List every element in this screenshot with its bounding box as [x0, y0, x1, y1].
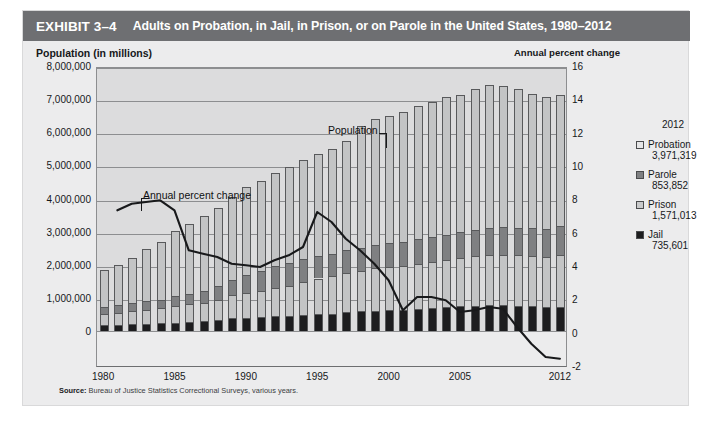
y2-tick-label: 6	[572, 228, 602, 239]
y-tick-label: 5,000,000	[29, 160, 91, 171]
bar-segment-probation	[357, 126, 366, 248]
bar-segment-probation	[328, 149, 337, 254]
bar-segment-jail	[542, 307, 551, 331]
bar-segment-jail	[471, 306, 480, 331]
bar-segment-jail	[442, 307, 451, 331]
bar-segment-prison	[185, 304, 194, 321]
bar-segment-prison	[171, 306, 180, 322]
y-tick-label: 3,000,000	[29, 227, 91, 238]
bar-segment-jail	[514, 306, 523, 331]
bar-segment-prison	[299, 282, 308, 315]
bar-segment-parole	[200, 291, 209, 303]
exhibit-page: EXHIBIT 3–4 Adults on Probation, in Jail…	[0, 0, 711, 440]
bar-1987	[200, 216, 209, 331]
bar-1988	[214, 208, 223, 331]
bar-segment-prison	[357, 271, 366, 312]
bar-segment-parole	[556, 226, 565, 254]
exhibit-title-bar: EXHIBIT 3–4 Adults on Probation, in Jail…	[23, 11, 690, 41]
bar-segment-jail	[428, 308, 437, 331]
legend-item-probation[interactable]: Probation3,971,319	[636, 139, 706, 162]
y-tick-label: 8,000,000	[29, 61, 91, 72]
bar-1995	[314, 154, 323, 331]
bar-2006	[471, 89, 480, 331]
legend-item-name: Prison	[648, 199, 676, 210]
bar-segment-parole	[499, 227, 508, 254]
bar-segment-jail	[142, 324, 151, 331]
bar-segment-probation	[214, 208, 223, 286]
chart-lower-band	[96, 332, 567, 367]
bar-segment-probation	[257, 181, 266, 271]
bar-segment-prison	[499, 255, 508, 305]
legend-items: Probation3,971,319Parole853,852Prison1,5…	[636, 139, 706, 252]
bar-segment-probation	[228, 197, 237, 281]
bar-segment-prison	[399, 266, 408, 310]
bar-segment-parole	[456, 232, 465, 258]
bar-segment-jail	[485, 305, 494, 331]
bar-segment-jail	[528, 306, 537, 331]
y-axis-title-left: Population (in millions)	[36, 47, 152, 59]
exhibit-number: EXHIBIT 3–4	[36, 19, 117, 34]
bar-segment-jail	[399, 310, 408, 331]
bar-segment-probation	[185, 224, 194, 294]
bar-1984	[157, 242, 166, 331]
legend-item-jail[interactable]: Jail735,601	[636, 229, 706, 252]
bar-segment-parole	[485, 228, 494, 255]
bar-2010	[528, 94, 537, 331]
bar-segment-parole	[442, 235, 451, 261]
bar-segment-parole	[399, 242, 408, 266]
bar-segment-parole	[357, 248, 366, 271]
y-axis-title-right: Annual percent change	[514, 47, 620, 58]
bar-segment-parole	[542, 229, 551, 257]
bar-segment-prison	[528, 256, 537, 306]
legend-item-parole[interactable]: Parole853,852	[636, 169, 706, 192]
bar-segment-parole	[328, 254, 337, 277]
bar-segment-prison	[371, 268, 380, 311]
bar-segment-jail	[342, 312, 351, 331]
bar-segment-jail	[228, 318, 237, 331]
jail-swatch	[636, 231, 644, 239]
probation-swatch	[636, 141, 644, 149]
legend-item-value: 735,601	[652, 240, 706, 252]
bar-segment-parole	[171, 296, 180, 306]
bar-segment-prison	[442, 260, 451, 307]
annotation-leader-pop	[386, 133, 387, 148]
y2-tick-label: 0	[572, 328, 602, 339]
bar-segment-jail	[257, 317, 266, 331]
bar-segment-jail	[214, 320, 223, 331]
bar-2000	[385, 116, 394, 331]
bar-segment-jail	[157, 323, 166, 331]
bar-segment-parole	[342, 250, 351, 273]
bar-1985	[171, 231, 180, 331]
bar-segment-parole	[114, 305, 123, 312]
exhibit-card: EXHIBIT 3–4 Adults on Probation, in Jail…	[22, 10, 689, 406]
legend-item-value: 3,971,319	[652, 150, 706, 162]
bar-segment-jail	[456, 306, 465, 331]
x-tick-label: 1995	[287, 371, 347, 382]
legend-year-label: 2012	[640, 119, 706, 130]
bar-1991	[257, 181, 266, 331]
bar-segment-jail	[414, 309, 423, 331]
bar-segment-parole	[128, 303, 137, 310]
bar-segment-jail	[385, 310, 394, 331]
bar-segment-probation	[171, 231, 180, 296]
bar-segment-jail	[499, 305, 508, 331]
y2-tick-label: 4	[572, 261, 602, 272]
bar-2003	[428, 102, 437, 331]
bar-segment-parole	[100, 307, 109, 314]
bar-segment-parole	[314, 256, 323, 279]
bar-segment-jail	[299, 315, 308, 331]
bar-segment-probation	[528, 94, 537, 228]
bar-segment-probation	[114, 265, 123, 306]
bar-segment-prison	[214, 300, 223, 320]
bar-segment-probation	[128, 258, 137, 303]
bar-segment-prison	[285, 286, 294, 316]
bar-segment-prison	[428, 262, 437, 308]
bar-segment-jail	[371, 311, 380, 331]
bar-segment-jail	[128, 324, 137, 331]
legend-item-prison[interactable]: Prison1,571,013	[636, 199, 706, 222]
bar-segment-jail	[556, 307, 565, 331]
bar-segment-prison	[328, 276, 337, 313]
bar-1983	[142, 249, 151, 331]
bar-segment-parole	[228, 280, 237, 295]
bar-segment-parole	[299, 259, 308, 282]
